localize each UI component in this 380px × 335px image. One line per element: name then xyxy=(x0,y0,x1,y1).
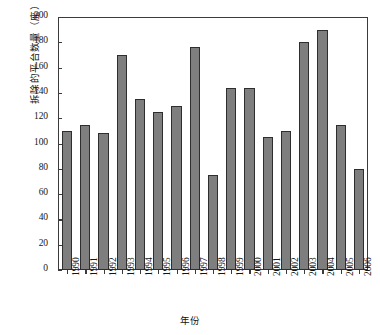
bar xyxy=(135,99,145,270)
bar xyxy=(153,112,163,270)
bar-slot xyxy=(332,17,350,270)
bar-slot xyxy=(58,17,76,270)
x-axis-tick-label: 2001 xyxy=(272,257,282,276)
bar xyxy=(62,131,72,270)
bar xyxy=(190,47,200,270)
x-axis-tick-mark xyxy=(341,270,342,274)
x-axis-tick-label: 2000 xyxy=(253,257,263,276)
bar-slot xyxy=(204,17,222,270)
x-axis-tick-label: 1990 xyxy=(71,257,81,276)
bar-slot xyxy=(259,17,277,270)
bar-slot xyxy=(131,17,149,270)
x-axis-tick-label: 1991 xyxy=(89,257,99,276)
y-axis-tick-label: 40 xyxy=(39,212,48,222)
bar xyxy=(299,42,309,270)
bar-slot xyxy=(222,17,240,270)
x-axis-tick-mark xyxy=(268,270,269,274)
x-axis-tick-label: 1993 xyxy=(126,257,136,276)
x-axis-tick-mark xyxy=(104,270,105,274)
x-axis-tick-label: 1994 xyxy=(144,257,154,276)
bar xyxy=(226,88,236,270)
x-axis-tick-mark xyxy=(286,270,287,274)
bar-slot xyxy=(186,17,204,270)
y-axis-tick-label: 180 xyxy=(34,35,48,45)
bar xyxy=(80,125,90,270)
x-axis-title: 年份 xyxy=(0,313,380,327)
bar xyxy=(317,30,327,270)
bar-series xyxy=(58,17,368,270)
x-axis-tick-mark xyxy=(122,270,123,274)
bar-slot xyxy=(295,17,313,270)
x-axis-tick-mark xyxy=(322,270,323,274)
x-axis-tick-mark xyxy=(140,270,141,274)
x-axis-tick-label: 2006 xyxy=(363,257,373,276)
y-axis-tick-mark xyxy=(58,270,62,271)
x-axis-tick-label: 2003 xyxy=(308,257,318,276)
y-axis-tick-label: 80 xyxy=(39,162,48,172)
x-axis-tick-label: 2002 xyxy=(290,257,300,276)
x-axis-tick-mark xyxy=(85,270,86,274)
x-axis-tick-mark xyxy=(195,270,196,274)
bar-slot xyxy=(94,17,112,270)
x-axis-tick-label: 1997 xyxy=(199,257,209,276)
bar-slot xyxy=(167,17,185,270)
x-axis-tick-label: 2004 xyxy=(326,257,336,276)
x-axis-tick-label: 2005 xyxy=(345,257,355,276)
bar-slot xyxy=(76,17,94,270)
bar xyxy=(208,175,218,270)
y-axis-tick-label: 20 xyxy=(39,238,48,248)
bar xyxy=(244,88,254,270)
x-axis-tick-mark xyxy=(213,270,214,274)
x-axis-tick-mark xyxy=(304,270,305,274)
bar xyxy=(171,106,181,270)
x-axis-tick-mark xyxy=(177,270,178,274)
bar-slot xyxy=(350,17,368,270)
bar xyxy=(98,133,108,270)
x-axis-tick-label: 1998 xyxy=(217,257,227,276)
y-axis-tick-label: 120 xyxy=(34,111,48,121)
y-axis-tick-label: 60 xyxy=(39,187,48,197)
bar xyxy=(336,125,346,270)
bar xyxy=(354,169,364,270)
x-axis-tick-label: 1992 xyxy=(108,257,118,276)
bar xyxy=(281,131,291,270)
y-axis-tick-label: 200 xyxy=(34,10,48,20)
bar xyxy=(263,137,273,270)
y-axis-tick-label: 140 xyxy=(34,86,48,96)
x-axis-tick-mark xyxy=(158,270,159,274)
y-axis-tick-label: 100 xyxy=(34,137,48,147)
bar-chart: 拆除的平台数量（座） 020406080100120140160180200 1… xyxy=(0,0,380,335)
bar-slot xyxy=(240,17,258,270)
x-axis-tick-label: 1996 xyxy=(181,257,191,276)
bar-slot xyxy=(113,17,131,270)
bar xyxy=(117,55,127,270)
bar-slot xyxy=(277,17,295,270)
x-axis-tick-mark xyxy=(249,270,250,274)
x-axis-tick-mark xyxy=(67,270,68,274)
x-axis-tick-label: 1995 xyxy=(162,257,172,276)
x-axis-tick-mark xyxy=(231,270,232,274)
x-axis-tick-label: 1999 xyxy=(235,257,245,276)
bar-slot xyxy=(149,17,167,270)
x-axis-tick-mark xyxy=(359,270,360,274)
y-axis-tick-label: 0 xyxy=(43,263,48,273)
bar-slot xyxy=(313,17,331,270)
y-axis-tick-label: 160 xyxy=(34,61,48,71)
